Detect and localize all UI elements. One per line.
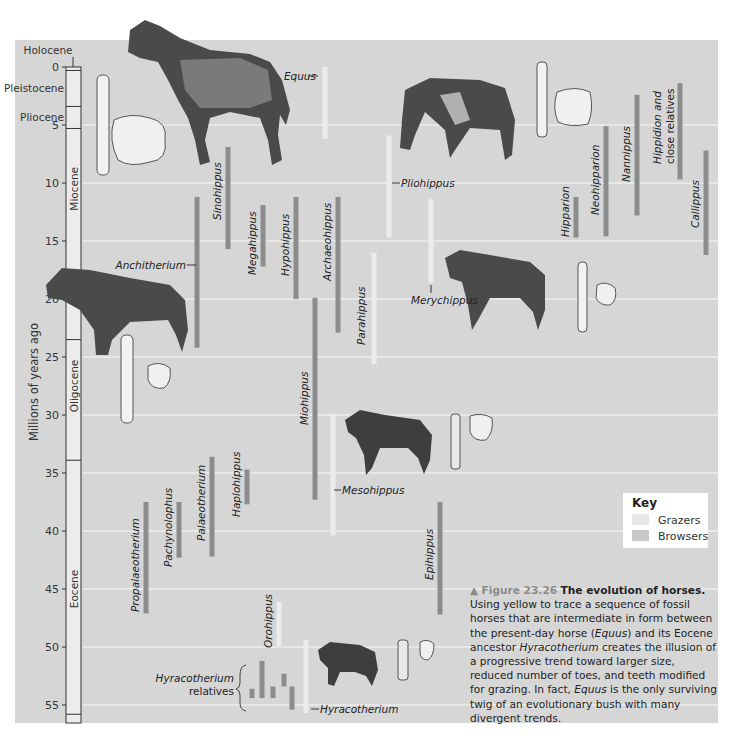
legend-swatch-grazers xyxy=(632,514,649,525)
caption-italic-1: Equus xyxy=(595,627,627,639)
bar-hyracotherium-relatives-1 xyxy=(250,689,255,698)
label-archaeohippus: Archaeohippus xyxy=(321,202,333,282)
caption-figure-title: The evolution of horses. xyxy=(561,584,706,596)
bar-hippidion-and-close-relatives xyxy=(678,83,683,179)
legend-label-browsers: Browsers xyxy=(658,530,709,543)
caption-italic-3: Equus xyxy=(574,683,606,695)
anchitherium-tooth-icon xyxy=(148,363,170,388)
epoch-label-pleistocene: Pleistocene xyxy=(4,82,64,94)
bar-pliohippus xyxy=(387,135,392,237)
label-epihippus: Epihippus xyxy=(423,528,435,580)
merychippus-tooth-icon xyxy=(596,283,616,305)
y-tick-label: 0 xyxy=(52,61,59,74)
bar-hyracotherium xyxy=(304,640,309,713)
bar-parahippus xyxy=(372,253,377,364)
bar-archaeohippus xyxy=(336,197,341,333)
bar-hipparion xyxy=(574,197,579,238)
label-haplohippus: Haplohippus xyxy=(230,451,242,517)
label-mesohippus: Mesohippus xyxy=(342,484,405,496)
label-nannippus: Nannippus xyxy=(620,125,632,182)
y-tick-label: 15 xyxy=(45,235,59,248)
label-pliohippus: Pliohippus xyxy=(401,177,455,189)
caption-italic-2: Hyracotherium xyxy=(519,641,598,653)
bar-miohippus xyxy=(313,298,318,500)
label-hippidion-2: close relatives xyxy=(664,89,676,164)
mesohippus-foot-bone-icon xyxy=(451,414,460,469)
y-tick-label: 50 xyxy=(45,641,59,654)
epoch-label-eocene: Eocene xyxy=(68,570,80,608)
equus-tooth-icon xyxy=(112,115,166,164)
label-parahippus: Parahippus xyxy=(355,286,367,345)
bar-hyracotherium-relatives-2 xyxy=(260,661,265,698)
bar-neohipparion xyxy=(604,126,609,236)
bar-megahippus xyxy=(261,205,266,266)
caption-figure-number: Figure 23.26 xyxy=(482,584,558,596)
y-tick-label: 10 xyxy=(45,177,59,190)
label-megahippus: Megahippus xyxy=(246,211,258,275)
mesohippus-tooth-icon xyxy=(470,414,492,440)
bar-callippus xyxy=(704,151,709,255)
legend-label-grazers: Grazers xyxy=(658,514,701,527)
label-neohipparion: Neohipparion xyxy=(589,145,601,215)
bar-pachynolophus xyxy=(177,502,182,558)
y-tick-label: 25 xyxy=(45,351,59,364)
pliohippus-tooth-icon xyxy=(555,89,592,126)
figure-caption: ▲ Figure 23.26 The evolution of horses. … xyxy=(470,583,720,725)
label-orohippus: Orohippus xyxy=(262,593,274,648)
label-miohippus: Miohippus xyxy=(298,371,310,425)
label-propalaeotherium: Propalaeotherium xyxy=(129,518,141,612)
label-merychippus: Merychippus xyxy=(411,294,478,306)
label-hyracotherium-relatives-1: Hyracotherium xyxy=(156,672,234,684)
bar-orohippus xyxy=(277,602,282,646)
label-palaeotherium: Palaeotherium xyxy=(195,465,207,541)
y-tick-label: 5 xyxy=(52,119,59,132)
hyracotherium-foot-bone-icon xyxy=(398,640,408,680)
bar-anchitherium xyxy=(195,197,200,348)
epoch-label-holocene: Holocene xyxy=(23,44,72,56)
legend-title: Key xyxy=(632,496,657,510)
epoch-label-oligocene: Oligocene xyxy=(68,360,80,413)
label-hippidion-1: Hippidion and xyxy=(651,91,663,164)
y-tick-label: 55 xyxy=(45,699,59,712)
bar-hyracotherium-relatives-5 xyxy=(290,686,295,709)
label-hyracotherium-relatives-2: relatives xyxy=(189,685,234,697)
bar-hyracotherium-relatives-4 xyxy=(282,674,287,687)
y-tick-label: 45 xyxy=(45,583,59,596)
equus-foot-bone-icon xyxy=(97,75,109,175)
bar-hyracotherium-relatives-3 xyxy=(271,686,276,698)
y-tick-label: 35 xyxy=(45,467,59,480)
bar-epihippus xyxy=(438,502,443,615)
bar-haplohippus xyxy=(245,470,250,505)
merychippus-foot-bone-icon xyxy=(578,262,587,332)
y-tick-label: 30 xyxy=(45,409,59,422)
label-hyracotherium: Hyracotherium xyxy=(320,703,398,715)
bar-nannippus xyxy=(635,95,640,216)
anchitherium-foot-bone-icon xyxy=(121,335,133,423)
bar-merychippus xyxy=(429,199,434,283)
label-callippus: Callippus xyxy=(689,179,701,228)
epoch-label-miocene: Miocene xyxy=(68,167,80,211)
label-hipparion: Hipparion xyxy=(559,186,571,237)
legend-swatch-browsers xyxy=(632,530,649,541)
label-sinohippus: Sinohippus xyxy=(211,162,223,220)
bar-propalaeotherium xyxy=(144,502,149,613)
y-axis-title: Millions of years ago xyxy=(27,323,41,441)
label-hypohippus: Hypohippus xyxy=(279,213,291,276)
legend: Key Grazers Browsers xyxy=(623,493,709,548)
bar-sinohippus xyxy=(226,147,231,249)
y-tick-label: 40 xyxy=(45,525,59,538)
pliohippus-foot-bone-icon xyxy=(537,62,547,137)
caption-arrow-icon: ▲ xyxy=(470,584,478,596)
bar-equus xyxy=(323,67,328,139)
bar-palaeotherium xyxy=(210,457,215,557)
label-anchitherium: Anchitherium xyxy=(114,259,186,271)
bar-mesohippus xyxy=(331,414,336,536)
bar-hypohippus xyxy=(294,197,299,299)
label-pachynolophus: Pachynolophus xyxy=(162,487,174,567)
